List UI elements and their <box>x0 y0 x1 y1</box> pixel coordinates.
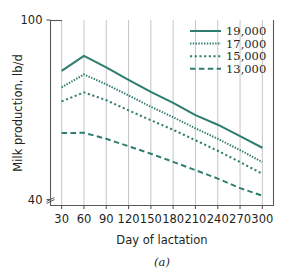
x-tick-label: 270 <box>229 212 251 226</box>
figure-container: 10040 306090120150180210240270300 19,000… <box>0 0 297 274</box>
series-line-13000 <box>62 133 263 196</box>
y-tick-label: 100 <box>21 13 43 27</box>
milk-production-chart: 10040 306090120150180210240270300 19,000… <box>0 0 297 274</box>
figure-caption: (a) <box>154 255 170 269</box>
x-tick-group: 306090120150180210240270300 <box>54 206 273 226</box>
series-line-17000 <box>62 74 263 162</box>
x-tick-label: 180 <box>162 212 184 226</box>
x-tick-label: 60 <box>77 212 92 226</box>
x-tick-label: 240 <box>207 212 229 226</box>
x-axis-title: Day of lactation <box>116 233 207 247</box>
x-tick-label: 120 <box>118 212 140 226</box>
x-tick-label: 300 <box>251 212 273 226</box>
series-group <box>62 56 263 196</box>
chart-legend: 19,00017,00015,00013,000 <box>190 24 266 76</box>
x-tick-label: 210 <box>184 212 206 226</box>
x-tick-label: 150 <box>140 212 162 226</box>
x-tick-label: 90 <box>99 212 114 226</box>
y-axis-title: Milk production, lb/d <box>11 54 25 171</box>
x-tick-label: 30 <box>54 212 69 226</box>
y-tick-label: 40 <box>28 193 43 207</box>
legend-label: 13,000 <box>226 62 266 76</box>
y-tick-group: 10040 <box>21 13 51 207</box>
